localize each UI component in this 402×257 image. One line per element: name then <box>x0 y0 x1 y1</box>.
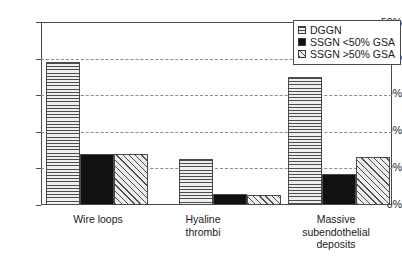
legend-item-dggn[interactable]: DGGN <box>298 25 395 37</box>
bar-group-wire-loops <box>46 22 150 205</box>
legend: DGGN SSGN <50% GSA SSGN >50% GSA <box>293 20 401 65</box>
bar-dggn-hyaline-thrombi[interactable] <box>179 159 213 205</box>
legend-label: SSGN >50% GSA <box>310 49 395 60</box>
x-label-line: deposits <box>281 238 391 251</box>
x-label-hyaline-thrombi: Hyaline thrombi <box>151 213 255 238</box>
legend-label: SSGN <50% GSA <box>310 37 395 48</box>
x-label-line: thrombi <box>151 226 255 239</box>
legend-label: DGGN <box>310 25 342 36</box>
diagonal-hatch-swatch-icon <box>298 50 306 58</box>
x-label-line: Hyaline <box>151 213 255 226</box>
bar-ssgn-gt50-massive-deposits[interactable] <box>356 157 390 205</box>
bar-ssgn-gt50-hyaline-thrombi[interactable] <box>247 195 281 205</box>
x-label-line: Massive <box>281 213 391 226</box>
bar-chart: 50% 40% 30% 20% 10% 0% <box>0 0 402 257</box>
x-label-massive-subendothelial-deposits: Massive subendothelial deposits <box>281 213 391 251</box>
x-label-line: subendothelial <box>281 226 391 239</box>
bar-ssgn-lt50-massive-deposits[interactable] <box>322 174 356 205</box>
bar-ssgn-lt50-hyaline-thrombi[interactable] <box>213 194 247 205</box>
y-tick-mark-0 <box>36 205 41 206</box>
bar-dggn-massive-deposits[interactable] <box>288 77 322 205</box>
bar-dggn-wire-loops[interactable] <box>46 62 80 205</box>
legend-item-ssgn-gt50[interactable]: SSGN >50% GSA <box>298 49 395 61</box>
bar-group-hyaline-thrombi <box>151 22 255 205</box>
bar-ssgn-lt50-wire-loops[interactable] <box>80 154 114 205</box>
legend-item-ssgn-lt50[interactable]: SSGN <50% GSA <box>298 37 395 49</box>
bar-ssgn-gt50-wire-loops[interactable] <box>114 154 148 205</box>
x-label-wire-loops: Wire loops <box>46 213 150 226</box>
horizontal-lines-swatch-icon <box>298 26 306 34</box>
solid-black-swatch-icon <box>298 38 306 46</box>
x-label-line: Wire loops <box>46 213 150 226</box>
